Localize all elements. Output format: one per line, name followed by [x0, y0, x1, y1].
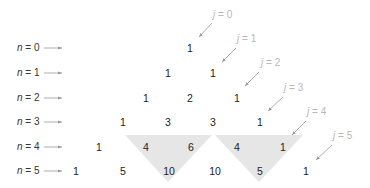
row-label-n0: n = 0	[17, 42, 40, 54]
cell-n4-k1: 4	[143, 141, 149, 153]
cell-n3-k0: 1	[120, 116, 126, 128]
cell-n4-k3: 4	[234, 141, 240, 153]
cell-n5-k5: 1	[303, 165, 309, 177]
cell-n2-k1: 2	[187, 92, 193, 104]
diagonal-label-j0: j = 0	[213, 9, 232, 21]
cell-n5-k3: 10	[209, 165, 221, 177]
diagonal-label-j2: j = 2	[261, 57, 280, 69]
cell-n4-k2: 6	[188, 141, 194, 153]
cell-n3-k3: 1	[257, 116, 263, 128]
cell-n5-k2: 10	[163, 165, 175, 177]
cell-n4-k4: 1	[280, 141, 286, 153]
cell-n5-k0: 1	[73, 165, 79, 177]
diagonal-label-j1: j = 1	[237, 33, 256, 45]
diagram-graphics	[0, 0, 370, 188]
row-label-n3: n = 3	[17, 116, 40, 128]
row-label-n4: n = 4	[17, 141, 40, 153]
cell-n4-k0: 1	[96, 141, 102, 153]
row-arrows	[44, 48, 62, 171]
diagonal-label-j5: j = 5	[333, 130, 352, 142]
cell-n2-k0: 1	[143, 92, 149, 104]
diagonal-label-j4: j = 4	[307, 106, 326, 118]
row-label-n5: n = 5	[17, 165, 40, 177]
row-label-n1: n = 1	[17, 67, 40, 79]
diagonal-label-j3: j = 3	[284, 82, 303, 94]
cell-n1-k1: 1	[210, 67, 216, 79]
cell-n3-k2: 3	[210, 116, 216, 128]
row-label-n2: n = 2	[17, 92, 40, 104]
cell-n5-k4: 5	[257, 165, 263, 177]
cell-n3-k1: 3	[165, 116, 171, 128]
cell-n2-k2: 1	[234, 92, 240, 104]
cell-n1-k0: 1	[165, 67, 171, 79]
cell-n0-k0: 1	[187, 42, 193, 54]
cell-n5-k1: 5	[120, 165, 126, 177]
pascal-triangle-diagram: n = 0 n = 1 n = 2 n = 3 n = 4 n = 5 1 1 …	[0, 0, 370, 188]
